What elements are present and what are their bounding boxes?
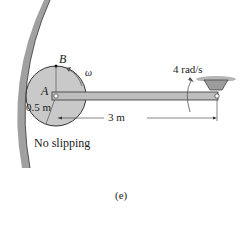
label-rod-length: 3 m bbox=[108, 112, 125, 123]
pin-a bbox=[54, 94, 58, 98]
label-angular-velocity: 4 rad/s bbox=[173, 64, 203, 75]
pin-support bbox=[204, 80, 228, 90]
point-b-dot bbox=[55, 65, 58, 68]
label-omega: ω bbox=[85, 68, 92, 78]
label-point-b: B bbox=[59, 53, 66, 65]
pin-right bbox=[215, 94, 219, 98]
label-radius: 0.5 m bbox=[26, 102, 51, 113]
label-condition: No slipping bbox=[34, 137, 90, 149]
rod bbox=[52, 92, 218, 100]
label-point-a: A bbox=[41, 85, 48, 97]
figure-caption: (e) bbox=[115, 190, 127, 201]
